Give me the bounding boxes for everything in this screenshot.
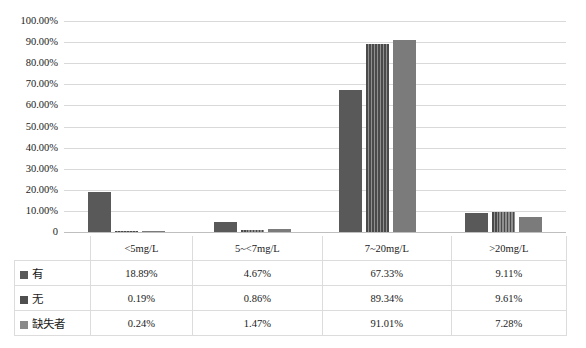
bar [268,229,291,232]
legend-entry: 有 [15,261,91,286]
bar-group [64,21,190,232]
chart-figure: 100.00%90.00%80.00%70.00%60.00%50.00%40.… [0,0,586,348]
legend-swatch-que [20,321,28,329]
bar [88,192,111,232]
legend-label: 有 [32,268,43,280]
table-value-cell: 91.01% [323,311,452,336]
bar [366,44,389,233]
bar [492,212,515,232]
y-axis-tick-label: 10.00% [26,206,58,217]
y-axis-labels: 100.00%90.00%80.00%70.00%60.00%50.00%40.… [0,0,62,236]
bar-group [190,21,316,232]
y-axis-tick-label: 70.00% [26,79,58,90]
y-axis-tick-label: 30.00% [26,164,58,175]
y-axis-tick-label: 100.00% [20,16,58,27]
plot-area: 100.00%90.00%80.00%70.00%60.00%50.00%40.… [0,0,586,236]
table-header-row: <5mg/L5~<7mg/L7~20mg/L>20mg/L [15,236,567,261]
bar-group [315,21,441,232]
legend-swatch-you [20,271,28,279]
category-header-cell: 5~<7mg/L [192,236,322,261]
y-axis-tick-label: 40.00% [26,143,58,154]
bar-series-container [64,0,566,236]
bar [115,231,138,232]
legend-entry: 无 [15,286,91,311]
table-corner-cell [15,236,91,261]
table-value-cell: 9.61% [451,286,566,311]
table-value-cell: 4.67% [192,261,322,286]
table-value-cell: 9.11% [451,261,566,286]
category-header-cell: 7~20mg/L [323,236,452,261]
table-row: 有18.89%4.67%67.33%9.11% [15,261,567,286]
y-axis-tick-label: 50.00% [26,122,58,133]
table-value-cell: 0.86% [192,286,322,311]
legend-swatch-wu [20,296,28,304]
table-value-cell: 1.47% [192,311,322,336]
bar [393,40,416,232]
bar [339,90,362,232]
table-value-cell: 18.89% [91,261,193,286]
bar [241,230,264,232]
table-value-cell: 89.34% [323,286,452,311]
bar [465,213,488,232]
table-row: 无0.19%0.86%89.34%9.61% [15,286,567,311]
table-value-cell: 7.28% [451,311,566,336]
y-axis-tick-label: 20.00% [26,185,58,196]
category-header-cell: <5mg/L [91,236,193,261]
y-axis-tick-label: 90.00% [26,37,58,48]
table-row: 缺失者0.24%1.47%91.01%7.28% [15,311,567,336]
table-value-cell: 0.24% [91,311,193,336]
y-axis-tick-label: 80.00% [26,58,58,69]
bar-group [441,21,567,232]
legend-label: 无 [32,293,43,305]
table-value-cell: 0.19% [91,286,193,311]
data-table: <5mg/L5~<7mg/L7~20mg/L>20mg/L有18.89%4.67… [14,236,567,336]
table-value-cell: 67.33% [323,261,452,286]
bar [142,231,165,232]
legend-label: 缺失者 [32,318,65,330]
y-axis-tick-label: 60.00% [26,100,58,111]
category-header-cell: >20mg/L [451,236,566,261]
bar [214,222,237,232]
legend-entry: 缺失者 [15,311,91,336]
bar [519,217,542,232]
